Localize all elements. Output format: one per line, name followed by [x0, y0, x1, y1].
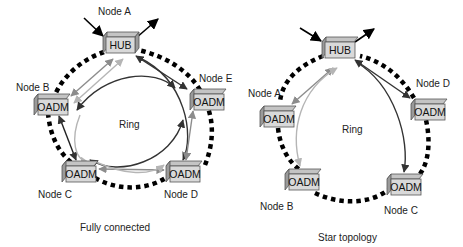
hub-box: HUB	[322, 37, 358, 58]
node-b-label: Node B	[260, 201, 294, 212]
hub-output-arrow	[355, 29, 374, 42]
oadm-label: OADM	[390, 181, 422, 193]
diagram-star-topology: HUB OADM Node A OADM Node D OADM Node B	[248, 28, 450, 243]
star-connections	[292, 60, 410, 172]
node-b-label: Node B	[16, 82, 50, 93]
oadm-label: OADM	[37, 101, 69, 113]
oadm-label: OADM	[263, 113, 295, 125]
mesh-connections	[59, 56, 193, 173]
node-a-label: Node A	[248, 88, 281, 99]
hub-input-arrow	[84, 18, 103, 36]
oadm-label: OADM	[169, 168, 201, 180]
node-c-label: Node C	[384, 205, 418, 216]
node-a-label: Node A	[98, 6, 131, 17]
oadm-node-d: OADM	[411, 99, 447, 120]
oadm-label: OADM	[193, 96, 225, 108]
node-d-label: Node D	[416, 78, 450, 89]
caption-fully-connected: Fully connected	[80, 222, 150, 233]
node-e-label: Node E	[199, 73, 233, 84]
oadm-node-c: OADM	[62, 161, 98, 182]
node-c-label: Node C	[38, 189, 72, 200]
node-d-label: Node D	[164, 189, 198, 200]
ring-label: Ring	[119, 119, 140, 130]
oadm-node-c: OADM	[387, 174, 423, 195]
oadm-node-b: OADM	[34, 94, 70, 115]
hub-box-label: HUB	[109, 39, 131, 51]
oadm-label: OADM	[65, 168, 97, 180]
hub-box: HUB	[103, 32, 139, 53]
oadm-label: OADM	[288, 176, 320, 188]
oadm-node-b: OADM	[285, 169, 321, 190]
caption-star-topology: Star topology	[318, 232, 377, 243]
oadm-node-a: OADM	[260, 106, 296, 127]
oadm-node-e: OADM	[190, 89, 226, 110]
hub-input-arrow	[300, 28, 321, 41]
hub-box-label: HUB	[329, 44, 351, 56]
ring-label: Ring	[342, 124, 363, 135]
diagram-fully-connected: HUB Node A OADM Node B OADM Node E OADM …	[16, 6, 233, 233]
oadm-label: OADM	[414, 106, 446, 118]
oadm-node-d: OADM	[166, 161, 202, 182]
topology-figure: HUB Node A OADM Node B OADM Node E OADM …	[0, 0, 463, 247]
